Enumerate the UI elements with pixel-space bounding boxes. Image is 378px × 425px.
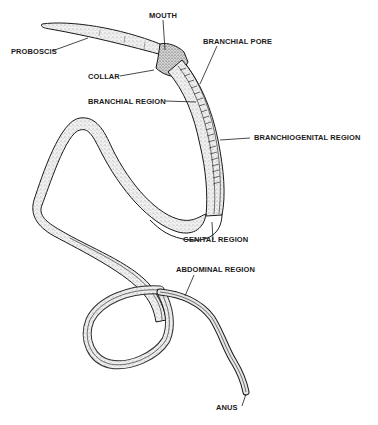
label-mouth: MOUTH <box>149 12 177 20</box>
branchial-trunk <box>168 60 224 216</box>
label-branchial-pore: BRANCHIAL PORE <box>203 38 272 46</box>
label-anus: ANUS <box>216 404 238 412</box>
tail <box>160 292 246 392</box>
label-collar: COLLAR <box>88 73 120 81</box>
label-abdominal-region: ABDOMINAL REGION <box>176 266 255 274</box>
acorn-worm-illustration <box>0 0 378 425</box>
label-branchial-region: BRANCHIAL REGION <box>88 98 166 106</box>
proboscis-shape <box>41 23 166 56</box>
label-proboscis: PROBOSCIS <box>11 48 57 56</box>
label-genital-region: GENITAL REGION <box>183 236 248 244</box>
label-branchiogenital-region: BRANCHIOGENITAL REGION <box>254 134 361 142</box>
